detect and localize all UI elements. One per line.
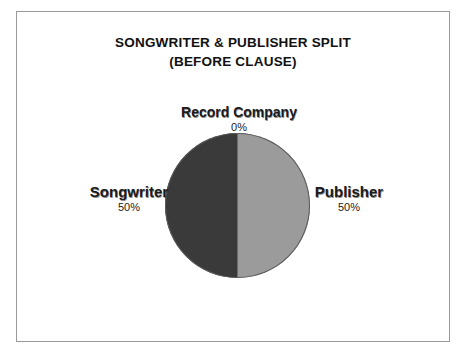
slice-percent-publisher: 50% [289,201,409,213]
slice-percent-record-company: 0% [164,121,314,133]
chart-title-line2: (BEFORE CLAUSE) [17,52,449,71]
chart-frame: SONGWRITER & PUBLISHER SPLIT (BEFORE CLA… [16,11,450,342]
slice-label-publisher: Publisher 50% [289,183,409,213]
pie-slice-divider [237,133,238,278]
slice-name-songwriter: Songwriter [69,183,189,200]
chart-title-line1: SONGWRITER & PUBLISHER SPLIT [115,35,351,50]
slice-percent-songwriter: 50% [69,201,189,213]
slice-name-publisher: Publisher [289,183,409,200]
chart-title: SONGWRITER & PUBLISHER SPLIT (BEFORE CLA… [17,33,449,71]
slice-name-record-company: Record Company [164,104,314,120]
slice-label-songwriter: Songwriter 50% [69,183,189,213]
slice-label-record-company: Record Company 0% [164,104,314,133]
